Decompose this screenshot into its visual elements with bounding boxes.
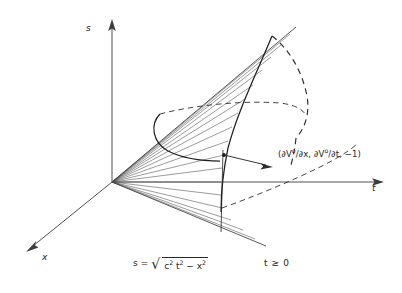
ruling-line — [112, 57, 271, 182]
axis-group — [26, 19, 384, 252]
equation-minus-sign: − — [186, 261, 194, 271]
vector-component-1-tail: /∂x, — [296, 149, 311, 159]
ruling-line — [112, 141, 228, 182]
x-axis-label: x — [42, 253, 47, 262]
radical-sign-icon: √ — [151, 259, 160, 270]
mid-ellipse-dashed-curve — [160, 102, 306, 116]
figure-container: s x t (∂Vo/∂x, ∂Vo/∂t, −1) s = √ c2 t2 −… — [0, 0, 402, 293]
ruling-line — [112, 70, 262, 182]
equation-lhs: s — [133, 259, 138, 268]
equation-term3-exponent: 2 — [202, 259, 206, 266]
cone-ruling-lines — [112, 34, 290, 239]
vector-component-2-base: ∂V — [314, 149, 324, 159]
condition-relation-symbol: ≥ — [272, 258, 280, 268]
ruling-line — [112, 182, 231, 220]
vector-close-paren: ) — [358, 149, 361, 159]
x-axis-line — [33, 182, 112, 246]
ruling-line — [112, 113, 238, 182]
vector-component-1-base: ∂V — [281, 149, 291, 159]
ruling-line — [112, 99, 245, 182]
equation-equals-sign: = — [141, 259, 149, 268]
back-rim-dashed-curve — [272, 36, 308, 138]
surface-equation: s = √ c2 t2 − x2 — [133, 257, 208, 271]
ruling-line — [112, 127, 232, 182]
ruling-line — [112, 182, 243, 230]
gradient-vector-arrow — [224, 155, 273, 169]
cone-edges — [112, 27, 296, 246]
domain-condition: t ≥ 0 — [264, 259, 290, 268]
condition-value: 0 — [283, 258, 289, 268]
vector-component-2-tail: /∂t, — [328, 149, 342, 159]
diagram-canvas — [0, 0, 402, 293]
gradient-vector-shaft — [224, 155, 266, 165]
gradient-vector-label: (∂Vo/∂x, ∂Vo/∂t, −1) — [278, 148, 361, 158]
vector-component-3: −1 — [345, 149, 358, 159]
ruling-line — [112, 168, 222, 182]
gradient-vector-arrowhead-icon — [260, 164, 273, 170]
t-axis-label: t — [372, 184, 376, 193]
s-axis-label: s — [86, 24, 91, 33]
cone-lower-edge — [112, 182, 266, 246]
equation-radicand: c2 t2 − x2 — [162, 257, 208, 271]
